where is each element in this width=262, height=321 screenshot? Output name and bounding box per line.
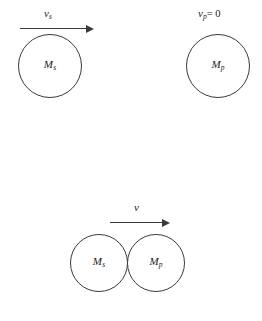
stage-during-contact: v Ms Mp: [0, 105, 262, 200]
stage-before-collision: vs Ms vp= 0 Mp: [0, 0, 262, 105]
body-planet-before: Mp: [186, 34, 250, 98]
velocity-label-planet-before: vp= 0: [198, 8, 220, 21]
mass-symbol: M: [44, 58, 53, 70]
mass-subscript: s: [53, 64, 56, 73]
mass-symbol: M: [211, 58, 220, 70]
stage-after-collision: v′s Ms v′p Mp: [0, 200, 262, 321]
body-label-source: Ms: [19, 59, 81, 72]
velocity-subscript: s: [49, 12, 52, 21]
velocity-arrow-source-before: [20, 24, 94, 33]
body-label-planet: Mp: [187, 59, 249, 72]
arrow-head-icon: [86, 25, 94, 33]
arrow-shaft: [20, 28, 86, 29]
body-source-before: Ms: [18, 34, 82, 98]
velocity-equals-zero: = 0: [207, 8, 221, 19]
mass-subscript: p: [221, 64, 225, 73]
velocity-label-source-before: vs: [44, 8, 52, 21]
